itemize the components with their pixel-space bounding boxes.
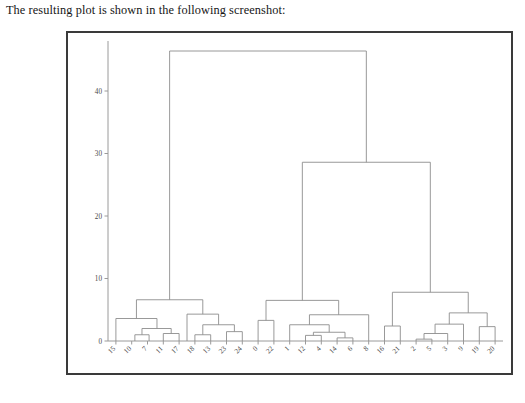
dendrogram-link [479,327,495,341]
x-tick-label: 17 [170,344,181,355]
page-caption: The resulting plot is shown in the follo… [6,3,286,18]
x-tick-label: 18 [186,344,197,355]
x-tick-label: 0 [251,344,259,352]
y-tick-label: 30 [95,150,103,158]
x-tick-label: 6 [346,344,354,352]
dendrogram-svg: 010203040 151071117181323240221124146816… [68,33,515,377]
dendrogram-link [424,334,448,342]
x-tick-label: 4 [315,344,323,352]
x-tick-label: 10 [122,344,133,355]
x-tick-label: 12 [296,344,307,355]
x-tick-label: 24 [233,344,244,355]
x-tick-label: 19 [470,344,481,355]
dendrogram-link [227,332,243,341]
y-tick-label: 20 [95,213,103,221]
x-tick-label: 3 [441,344,449,352]
x-tick-label: 13 [201,344,212,355]
dendrogram-link [290,325,330,341]
x-tick-label: 23 [217,344,228,355]
screenshot-frame: 010203040 151071117181323240221124146816… [66,31,513,375]
dendrogram-link [195,335,211,341]
dendrogram-link [203,325,235,335]
x-axis-ticks: 1510711171813232402211241468162125391920 [107,341,497,355]
y-tick-label: 40 [95,88,103,96]
dendrogram-link [136,300,202,319]
x-tick-label: 2 [409,344,417,352]
dendrogram-link [302,162,430,300]
x-tick-label: 20 [486,344,497,355]
y-axis-ticks: 010203040 [95,88,108,346]
dendrogram-link [392,292,468,326]
x-tick-label: 11 [154,344,165,355]
x-tick-label: 21 [391,344,402,355]
dendrogram-link [385,326,401,341]
x-tick-label: 8 [362,344,370,352]
dendrogram-plot: 010203040 151071117181323240221124146816… [68,33,515,377]
x-tick-label: 7 [141,344,149,352]
dendrogram-link [306,335,322,341]
dendrogram-link [309,315,368,341]
x-tick-label: 22 [265,344,276,355]
dendrogram-link [266,300,339,320]
x-tick-label: 5 [425,344,433,352]
x-tick-label: 16 [375,344,386,355]
dendrogram-link [135,335,149,341]
dendrogram-link [435,324,463,341]
x-tick-label: 9 [457,344,465,352]
dendrogram-link [163,334,179,342]
x-tick-label: 15 [107,344,118,355]
dendrogram-link [258,320,274,341]
y-tick-label: 10 [95,275,103,283]
y-tick-label: 0 [98,338,102,346]
dendrogram-link [116,319,157,342]
axes-group [108,41,503,341]
x-tick-label: 1 [283,344,291,352]
dendrogram-links [116,51,495,341]
dendrogram-link [170,51,367,300]
x-tick-label: 14 [328,344,339,355]
